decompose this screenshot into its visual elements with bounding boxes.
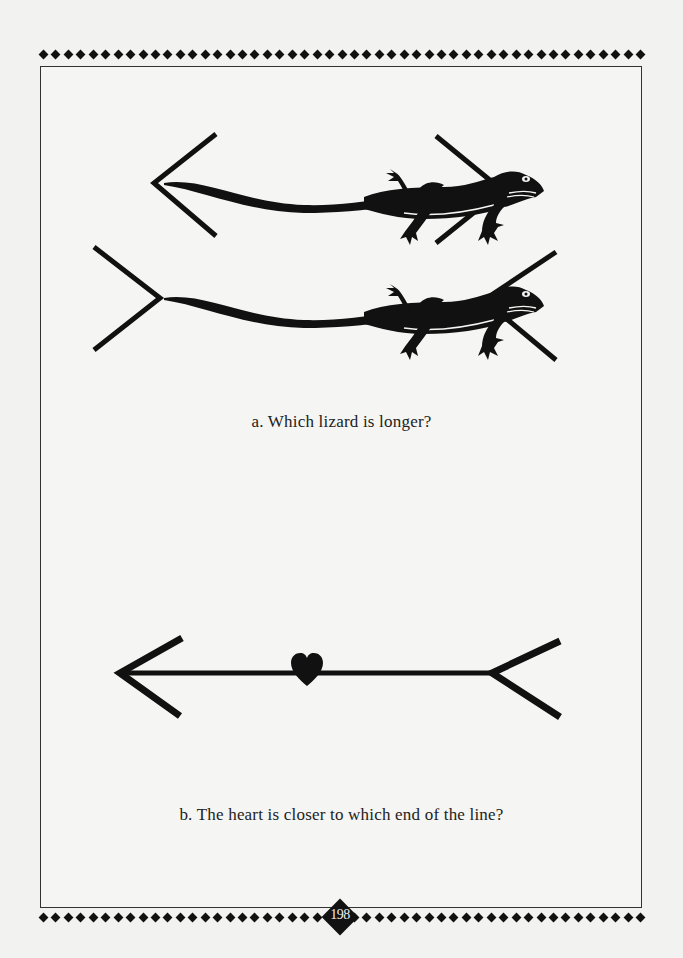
- diamond-icon: [88, 912, 98, 922]
- diamond-icon: [561, 912, 571, 922]
- diamond-icon: [275, 912, 285, 922]
- diamond-icon: [126, 912, 136, 922]
- diamond-icon: [511, 912, 521, 922]
- diamond-icon: [524, 912, 534, 922]
- diamond-icon: [412, 912, 422, 922]
- diamond-icon: [374, 912, 384, 922]
- diamond-icon: [250, 912, 260, 922]
- diamond-icon: [449, 912, 459, 922]
- page-number: 198: [322, 907, 358, 923]
- diamond-icon: [300, 912, 310, 922]
- diamond-icon: [548, 912, 558, 922]
- diamond-icon: [573, 912, 583, 922]
- diamond-icon: [238, 912, 248, 922]
- figure-b-caption: b. The heart is closer to which end of t…: [0, 805, 683, 825]
- diamond-icon: [424, 912, 434, 922]
- diamond-icon: [387, 912, 397, 922]
- diamond-icon: [312, 912, 322, 922]
- diamond-icon: [76, 912, 86, 922]
- diamond-icon: [225, 912, 235, 922]
- diamond-icon: [213, 912, 223, 922]
- diamond-icon: [623, 912, 633, 922]
- diamond-icon: [461, 912, 471, 922]
- page-number-badge: 198: [322, 899, 358, 935]
- diamond-icon: [437, 912, 447, 922]
- diamond-icon: [474, 912, 484, 922]
- diamond-icon: [262, 912, 272, 922]
- diamond-icon: [113, 912, 123, 922]
- diamond-icon: [51, 912, 61, 922]
- diamond-icon: [499, 912, 509, 922]
- diamond-icon: [150, 912, 160, 922]
- heart-icon: [291, 653, 323, 686]
- diamond-icon: [163, 912, 173, 922]
- diamond-icon: [188, 912, 198, 922]
- diamond-icon: [63, 912, 73, 922]
- diamond-icon: [399, 912, 409, 922]
- diamond-icon: [138, 912, 148, 922]
- diamond-icon: [39, 912, 49, 922]
- diamond-icon: [200, 912, 210, 922]
- diamond-icon: [101, 912, 111, 922]
- diamond-icon: [598, 912, 608, 922]
- diamond-icon: [175, 912, 185, 922]
- diamond-icon: [362, 912, 372, 922]
- diamond-icon: [536, 912, 546, 922]
- diamond-icon: [486, 912, 496, 922]
- diamond-icon: [287, 912, 297, 922]
- diamond-icon: [611, 912, 621, 922]
- diamond-icon: [586, 912, 596, 922]
- diamond-icon: [636, 912, 646, 922]
